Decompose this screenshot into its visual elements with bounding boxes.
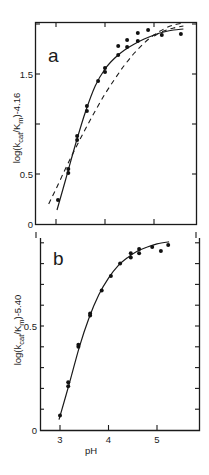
panel-a-curves bbox=[49, 23, 184, 210]
panel-b-y-ticks: 00.5 bbox=[24, 243, 199, 436]
fit-curve bbox=[57, 29, 183, 210]
panel-a: 00.51.5 a log(kcat/Km)-4.16 bbox=[11, 23, 197, 239]
y-tick-label: 0.5 bbox=[20, 169, 33, 180]
y-tick-label: 0.5 bbox=[24, 321, 37, 332]
data-point bbox=[56, 198, 60, 202]
y-tick-label: 0 bbox=[28, 219, 33, 230]
panel-b-x-ticks: 345 bbox=[57, 425, 159, 445]
data-point bbox=[136, 39, 140, 43]
panel-a-x-ticks bbox=[56, 23, 154, 224]
panel-a-label: a bbox=[48, 45, 59, 66]
data-point bbox=[137, 247, 141, 251]
data-point bbox=[116, 44, 120, 48]
data-point bbox=[146, 28, 150, 32]
data-point bbox=[100, 289, 104, 293]
x-tick-label: 3 bbox=[57, 434, 62, 445]
data-point bbox=[58, 413, 62, 417]
data-point bbox=[66, 380, 70, 384]
data-point bbox=[66, 167, 70, 171]
data-point bbox=[85, 109, 89, 113]
data-point bbox=[159, 249, 163, 253]
data-point bbox=[76, 343, 80, 347]
x-tick-label: 4 bbox=[106, 434, 111, 445]
data-point bbox=[125, 38, 129, 42]
data-point bbox=[96, 79, 100, 83]
data-point bbox=[129, 251, 133, 255]
data-point bbox=[136, 31, 140, 35]
data-point bbox=[66, 171, 70, 175]
data-point bbox=[125, 45, 129, 49]
data-point bbox=[179, 32, 183, 36]
panel-a-y-axis-label: log(kcat/Km)-4.16 bbox=[11, 93, 25, 164]
panel-a-data-points bbox=[56, 28, 183, 202]
data-point bbox=[150, 245, 154, 249]
chart-figure: 00.51.5 a log(kcat/Km)-4.16 00.5 345 b l… bbox=[0, 0, 209, 475]
data-point bbox=[75, 138, 79, 142]
panel-b-x-axis-label: pH bbox=[85, 445, 97, 456]
panel-b: 00.5 345 b log(kcat/Km)-5.40 pH bbox=[12, 238, 200, 456]
x-tick-label: 5 bbox=[154, 434, 159, 445]
data-point bbox=[75, 134, 79, 138]
panel-b-data-points bbox=[58, 243, 170, 418]
data-point bbox=[116, 53, 120, 57]
data-point bbox=[129, 255, 133, 259]
svg-text:log(kcat/Km)-4.16: log(kcat/Km)-4.16 bbox=[11, 93, 25, 164]
data-point bbox=[103, 70, 107, 74]
panel-a-frame bbox=[36, 23, 197, 225]
panel-b-curves bbox=[59, 242, 169, 420]
data-point bbox=[137, 251, 141, 255]
panel-a-y-ticks: 00.51.5 bbox=[20, 24, 196, 230]
data-point bbox=[109, 274, 113, 278]
data-point bbox=[103, 66, 107, 70]
data-point bbox=[66, 384, 70, 388]
fit-curve bbox=[59, 242, 169, 420]
data-point bbox=[160, 33, 164, 37]
data-point bbox=[88, 312, 92, 316]
panel-b-label: b bbox=[53, 248, 64, 269]
y-tick-label: 0 bbox=[32, 425, 37, 436]
y-tick-label: 1.5 bbox=[20, 69, 33, 80]
dashed-curve bbox=[49, 23, 184, 204]
data-point bbox=[85, 104, 89, 108]
data-point bbox=[118, 262, 122, 266]
data-point bbox=[166, 243, 170, 247]
